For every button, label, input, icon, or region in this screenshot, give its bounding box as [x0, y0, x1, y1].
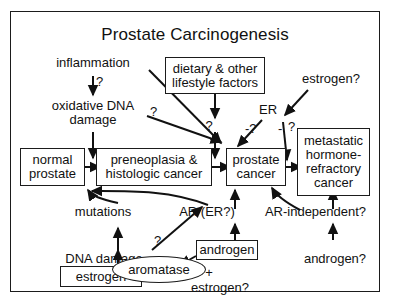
label-ar-independent: AR-independent? [253, 205, 378, 219]
node-normal-prostate[interactable]: normal prostate [20, 148, 85, 186]
diagram-canvas: Prostate Carcinogenesis [0, 0, 393, 308]
node-preneoplasia-histologic-cancer[interactable]: preneoplasia & histologic cancer [96, 148, 212, 186]
question-mark-oxidative: ? [150, 105, 164, 119]
label-er: ER [253, 103, 283, 117]
question-mark-er-right-dash: - [278, 122, 288, 136]
label-mutations: mutations [58, 205, 148, 219]
question-mark-inflammation: ? [96, 75, 110, 89]
node-androgen[interactable]: androgen [196, 240, 258, 260]
node-aromatase[interactable]: aromatase [112, 256, 206, 283]
label-ar-er: AR (ER?) [167, 205, 247, 219]
label-estrogen-question-top: estrogen? [285, 72, 377, 86]
node-prostate-cancer[interactable]: prostate cancer [226, 148, 286, 186]
arrow-estrogen-to-er [285, 90, 308, 115]
label-androgen-question: androgen? [289, 252, 381, 266]
label-oxidative-dna-damage: oxidative DNA damage [33, 99, 153, 126]
label-inflammation: inflammation [43, 56, 143, 70]
node-dietary-lifestyle[interactable]: dietary & other lifestyle factors [165, 57, 265, 94]
label-estrogen-question-bottom: estrogen? [174, 281, 266, 295]
node-metastatic-hormone-refractory-cancer[interactable]: metastatic hormone- refractory cancer [297, 128, 370, 196]
arrow-ar-to-preneoplasia [92, 191, 208, 205]
question-mark-dietary: ? [202, 119, 216, 133]
question-mark-aromatase-diagonal: ? [154, 234, 168, 248]
question-mark-er-left: -? [245, 122, 265, 136]
